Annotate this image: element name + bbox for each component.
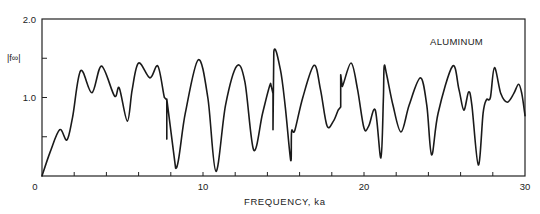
x-axis-label: FREQUENCY, ka [244,196,326,207]
x-tick-label: 10 [198,181,209,192]
y-tick-label: 1.0 [23,92,36,103]
y-axis-label: |f∞| [7,53,21,63]
chart: 01020301.02.0 ALUMINUM FREQUENCY, ka |f∞… [0,0,540,214]
x-tick-label: 30 [520,181,531,192]
x-tick-label: 0 [32,181,37,192]
material-annotation: ALUMINUM [430,36,483,47]
y-tick-label: 2.0 [23,14,36,25]
axis-ticks [42,58,493,176]
data-line [42,49,525,176]
x-tick-label: 20 [359,181,370,192]
